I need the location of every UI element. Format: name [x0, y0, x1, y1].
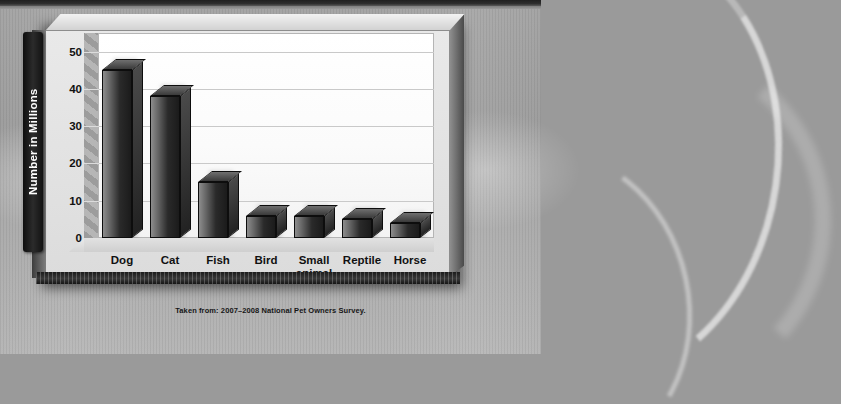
y-axis-tick-labels: 50403020100 — [46, 33, 82, 238]
source-caption: Taken from: 2007–2008 National Pet Owner… — [0, 306, 541, 315]
bar[interactable] — [294, 205, 335, 238]
bar-chart-figure: 50403020100 Number in Millions DogCatFis… — [32, 14, 464, 284]
bar[interactable] — [150, 85, 191, 238]
gridline — [98, 126, 434, 127]
x-axis-category-label: Reptile — [338, 254, 386, 267]
gridline — [98, 89, 434, 90]
bar[interactable] — [390, 212, 431, 238]
y-axis-tick-label: 20 — [58, 157, 82, 169]
gridline-sidewall — [84, 52, 99, 53]
bar[interactable] — [198, 171, 239, 238]
bar-front-face — [102, 70, 132, 238]
plot-side-wall — [84, 33, 99, 238]
y-axis-tick-label: 40 — [58, 83, 82, 95]
gridline-sidewall — [84, 89, 99, 90]
bar-side-face — [132, 62, 143, 238]
page-top-band-secondary — [0, 6, 541, 9]
chart-slab-right-edge — [450, 14, 464, 276]
y-axis-title: Number in Millions — [23, 32, 43, 252]
plot-floor — [84, 238, 434, 252]
gridline — [98, 163, 434, 164]
gridline-sidewall — [84, 201, 99, 202]
bar[interactable] — [246, 205, 287, 238]
gridline — [98, 52, 434, 53]
x-axis-category-label: Horse — [386, 254, 434, 267]
bar-front-face — [342, 219, 372, 238]
bar-front-face — [150, 96, 180, 238]
bar-front-face — [390, 223, 420, 238]
bar[interactable] — [102, 59, 143, 238]
x-axis-category-label: Fish — [194, 254, 242, 267]
chart-slab-top-bevel — [46, 14, 464, 30]
gridline-sidewall — [84, 126, 99, 127]
y-axis-tick-label: 10 — [58, 195, 82, 207]
bar-front-face — [246, 216, 276, 238]
x-axis-category-label: Cat — [146, 254, 194, 267]
bar-side-face — [228, 173, 239, 238]
chart-base-plinth-texture — [36, 272, 460, 284]
gridline — [98, 201, 434, 202]
plot-area — [84, 33, 434, 252]
y-axis-tick-label: 30 — [58, 120, 82, 132]
bar-front-face — [198, 182, 228, 238]
bar-front-face — [294, 216, 324, 238]
x-axis-category-label: Dog — [98, 254, 146, 267]
y-axis-tick-label: 50 — [58, 46, 82, 58]
bar-side-face — [180, 88, 191, 238]
y-axis-tick-label: 0 — [58, 232, 82, 244]
gridline-sidewall — [84, 163, 99, 164]
bar[interactable] — [342, 208, 383, 238]
x-axis-category-label: Bird — [242, 254, 290, 267]
